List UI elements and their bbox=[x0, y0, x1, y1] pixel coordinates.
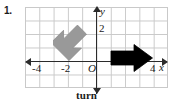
preimage-arrow-shape bbox=[53, 25, 93, 65]
x-tick-label-4: 4 bbox=[150, 63, 156, 74]
figure-caption: turn bbox=[0, 89, 173, 101]
problem-number: 1. bbox=[4, 5, 12, 16]
x-axis-left-arrowhead-icon bbox=[25, 58, 31, 66]
y-axis-label: y bbox=[100, 6, 105, 17]
x-tick-label-neg2: -2 bbox=[61, 63, 70, 74]
image-arrow-shape bbox=[110, 43, 154, 77]
origin-label: O bbox=[88, 63, 96, 74]
transformation-figure: 1. -4 -2 O 4 x 2 y turn bbox=[0, 0, 173, 104]
y-axis-line bbox=[96, 8, 97, 94]
x-tick-label-neg4: -4 bbox=[32, 63, 41, 74]
x-axis-label: x bbox=[159, 62, 164, 73]
preimage-arrow-icon bbox=[53, 25, 93, 61]
y-tick-label-2: 2 bbox=[99, 23, 105, 34]
image-arrow-icon bbox=[110, 43, 154, 73]
